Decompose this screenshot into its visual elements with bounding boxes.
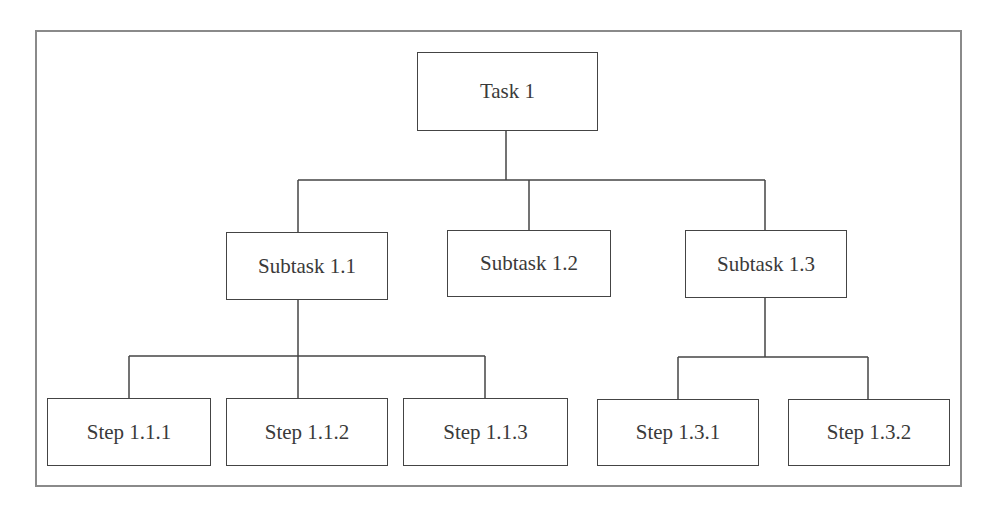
- node-subtask-1-1: Subtask 1.1: [226, 232, 388, 300]
- node-step-1-1-3: Step 1.1.3: [403, 398, 568, 466]
- node-subtask-1-3: Subtask 1.3: [685, 230, 847, 298]
- node-step-1-3-2: Step 1.3.2: [788, 399, 950, 466]
- node-task-1: Task 1: [417, 52, 598, 131]
- node-subtask-1-2: Subtask 1.2: [447, 230, 611, 297]
- node-step-1-1-2: Step 1.1.2: [226, 398, 388, 466]
- node-step-1-3-1: Step 1.3.1: [597, 399, 759, 466]
- node-step-1-1-1: Step 1.1.1: [47, 398, 211, 466]
